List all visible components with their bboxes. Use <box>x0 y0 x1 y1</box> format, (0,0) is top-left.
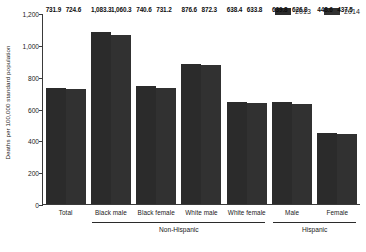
bar-value-label: 1,060.3 <box>111 6 132 13</box>
y-axis-tick-label: 200 <box>28 170 39 177</box>
bar-slot: 626.8 <box>292 14 312 204</box>
group-bracket-label: Hispanic <box>273 226 356 233</box>
bar[interactable]: 872.3 <box>201 65 221 204</box>
bar[interactable]: 638.4 <box>227 102 247 204</box>
bar-slot: 740.6 <box>136 14 156 204</box>
bar-group: 876.6872.3 <box>179 14 224 204</box>
bar-slot: 872.3 <box>201 14 221 204</box>
plot-area: 1,2001,0008006004002000 731.9724.61,083.… <box>42 14 360 205</box>
bar-slot: 731.9 <box>46 14 66 204</box>
x-axis-category-label: White female <box>224 209 269 216</box>
bar-slot: 437.5 <box>337 14 357 204</box>
bar-value-label: 633.8 <box>247 6 263 13</box>
bar-slot: 633.8 <box>247 14 267 204</box>
group-bracket-line <box>273 222 356 223</box>
y-axis-tick-label: 0 <box>35 202 39 209</box>
bar-group: 448.6437.5 <box>315 14 360 204</box>
bar-slot: 724.6 <box>66 14 86 204</box>
y-axis-title-text: Deaths per 100,000 standard population <box>4 45 11 159</box>
bar-group: 731.9724.6 <box>43 14 88 204</box>
bar-value-label: 731.2 <box>156 6 172 13</box>
bar-value-label: 1,083.3 <box>91 6 112 13</box>
bar-value-label: 876.6 <box>181 6 197 13</box>
bar[interactable]: 731.9 <box>46 88 66 204</box>
x-axis-category-label: Male <box>269 209 314 216</box>
bar-chart: 2013 2014 Deaths per 100,000 standard po… <box>0 0 366 252</box>
bar-slot: 876.6 <box>181 14 201 204</box>
group-bracket: Hispanic <box>273 222 356 233</box>
bar[interactable]: 437.5 <box>337 134 357 204</box>
bar-slot: 639.8 <box>272 14 292 204</box>
x-axis-category-label: White male <box>179 209 224 216</box>
bar[interactable]: 1,060.3 <box>111 35 131 204</box>
bar-slot: 638.4 <box>227 14 247 204</box>
bar[interactable]: 1,083.3 <box>91 32 111 204</box>
bar-value-label: 626.8 <box>292 6 308 13</box>
x-axis-category-label: Black male <box>88 209 133 216</box>
bar-value-label: 448.6 <box>317 6 333 13</box>
bar-value-label: 639.8 <box>272 6 288 13</box>
y-axis-tick-label: 600 <box>28 106 39 113</box>
bar[interactable]: 626.8 <box>292 104 312 204</box>
group-brackets: Non-HispanicHispanic <box>43 222 360 244</box>
bar[interactable]: 740.6 <box>136 86 156 204</box>
bar-value-label: 724.6 <box>66 6 82 13</box>
x-axis-category-labels: TotalBlack maleBlack femaleWhite maleWhi… <box>43 209 360 216</box>
bar-slot: 1,083.3 <box>91 14 111 204</box>
y-axis-tick-mark <box>39 205 43 206</box>
bar-slot: 731.2 <box>156 14 176 204</box>
y-axis-tick-label: 800 <box>28 74 39 81</box>
bar[interactable]: 448.6 <box>317 133 337 204</box>
y-axis-tick-label: 1,200 <box>22 11 39 18</box>
bar[interactable]: 731.2 <box>156 88 176 204</box>
x-axis-category-label: Female <box>315 209 360 216</box>
bar-group: 639.8626.8 <box>269 14 314 204</box>
x-axis-category-label: Black female <box>134 209 179 216</box>
group-bracket-line <box>92 222 265 223</box>
bar-group: 638.4633.8 <box>224 14 269 204</box>
bar-value-label: 638.4 <box>227 6 243 13</box>
bar-value-label: 740.6 <box>136 6 152 13</box>
bar[interactable]: 876.6 <box>181 64 201 204</box>
x-axis-category-label: Total <box>43 209 88 216</box>
bar[interactable]: 633.8 <box>247 103 267 204</box>
bar-groups: 731.9724.61,083.31,060.3740.6731.2876.68… <box>43 14 360 204</box>
y-axis-title: Deaths per 100,000 standard population <box>2 0 13 205</box>
y-axis-tick-label: 1,000 <box>22 42 39 49</box>
bar-slot: 1,060.3 <box>111 14 131 204</box>
group-bracket-label: Non-Hispanic <box>92 226 265 233</box>
bar-value-label: 437.5 <box>337 6 353 13</box>
x-axis-line <box>42 204 360 205</box>
bar-value-label: 731.9 <box>46 6 62 13</box>
bar[interactable]: 639.8 <box>272 102 292 204</box>
bar-slot: 448.6 <box>317 14 337 204</box>
bar[interactable]: 724.6 <box>66 89 86 204</box>
bar-group: 740.6731.2 <box>134 14 179 204</box>
group-bracket: Non-Hispanic <box>92 222 265 233</box>
y-axis-tick-label: 400 <box>28 138 39 145</box>
bar-value-label: 872.3 <box>201 6 217 13</box>
bar-group: 1,083.31,060.3 <box>88 14 133 204</box>
